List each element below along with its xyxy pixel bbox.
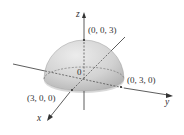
- x-axis-negative: [112, 37, 125, 50]
- point-label-y-intercept: (0, 3, 0): [127, 76, 156, 85]
- point-x-intercept: [71, 89, 73, 91]
- y-axis-label: y: [165, 98, 169, 108]
- point-label-top: (0, 0, 3): [88, 26, 117, 35]
- origin-label: 0: [77, 68, 82, 77]
- diagram-canvas: [0, 0, 184, 135]
- point-y-intercept: [120, 86, 122, 88]
- z-axis-label: z: [76, 10, 80, 20]
- hemisphere-diagram: z y x 0 (0, 0, 3) (0, 3, 0) (3, 0, 0): [0, 0, 184, 135]
- point-label-x-intercept: (3, 0, 0): [27, 94, 56, 103]
- z-axis-arrow-icon: [82, 12, 86, 18]
- x-axis-arrow-icon: [47, 114, 53, 121]
- hemisphere-surface: [44, 40, 124, 91]
- x-axis-label: x: [37, 114, 41, 124]
- point-top: [83, 39, 85, 41]
- y-axis-negative: [13, 64, 45, 71]
- y-axis: [124, 88, 168, 95]
